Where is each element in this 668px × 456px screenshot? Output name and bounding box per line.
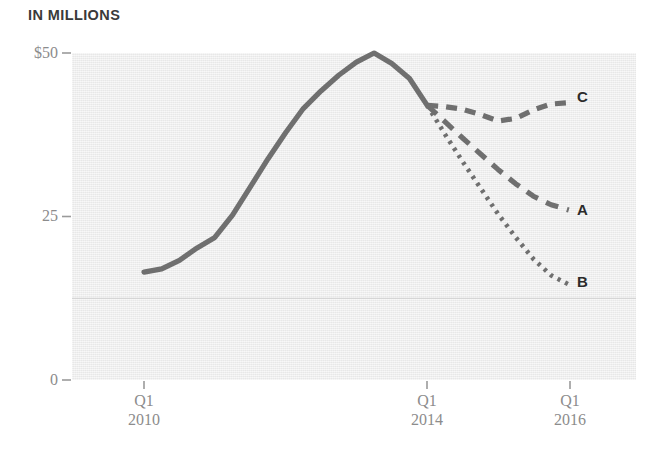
x-axis-tick-year-2014: 2014 (377, 411, 477, 430)
y-axis-tick-label-25: 25 (0, 207, 58, 225)
x-axis-tick-label-2010: Q1 2010 (94, 392, 194, 430)
x-axis-tick-label-2016: Q1 2016 (520, 392, 620, 430)
y-axis-tick-label-0: 0 (0, 371, 58, 389)
x-axis-tick-year-2010: 2010 (94, 411, 194, 430)
x-axis-tick-quarter-2014: Q1 (377, 392, 477, 411)
chart-plot-svg (0, 0, 668, 456)
series-label-c: C (577, 88, 588, 105)
x-axis-tick-year-2016: 2016 (520, 411, 620, 430)
x-axis-tick-label-2014: Q1 2014 (377, 392, 477, 430)
x-axis-tick-quarter-2016: Q1 (520, 392, 620, 411)
series-label-a: A (577, 201, 588, 218)
series-line-scenario-a (427, 105, 569, 210)
series-label-b: B (577, 273, 588, 290)
series-line-history (144, 53, 427, 272)
x-axis-tick-quarter-2010: Q1 (94, 392, 194, 411)
y-axis-tick-label-50: $50 (0, 44, 58, 62)
series-line-scenario-b (427, 105, 569, 284)
chart-container: IN MILLIONS $50 25 0 Q1 2010 Q1 2014 Q1 … (0, 0, 668, 456)
series-line-scenario-c (427, 103, 569, 121)
